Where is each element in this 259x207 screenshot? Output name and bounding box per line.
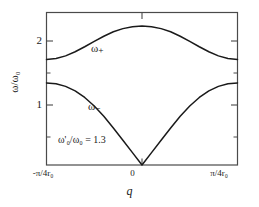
curve-label-omega-plus: ω₊ <box>91 42 104 55</box>
y-axis-ticks <box>47 41 238 105</box>
dispersion-chart-figure: ω/ω₀ q 2 1 -π/4r₀ 0 π/4r₀ ω₊ ω₋ ω'₀/ω₀ =… <box>0 0 259 207</box>
x-tick-label-left: -π/4r₀ <box>8 168 78 178</box>
x-tick-label-right: π/4r₀ <box>186 168 252 178</box>
y-axis-title: ω/ω₀ <box>8 52 20 112</box>
ratio-annotation: ω'₀/ω₀ = 1.3 <box>58 134 106 145</box>
curve-label-omega-minus: ω₋ <box>88 100 101 113</box>
curve-omega-plus <box>47 26 238 59</box>
x-axis-title: q <box>0 184 259 199</box>
curve-omega-minus <box>47 83 238 165</box>
y-axis-title-text: ω/ω₀ <box>8 71 20 92</box>
x-axis-title-text: q <box>127 184 133 198</box>
x-tick-label-middle: 0 <box>110 168 155 178</box>
y-axis-minor-ticks <box>47 73 238 137</box>
y-tick-label-1: 1 <box>20 98 42 110</box>
y-tick-label-2: 2 <box>20 34 42 46</box>
